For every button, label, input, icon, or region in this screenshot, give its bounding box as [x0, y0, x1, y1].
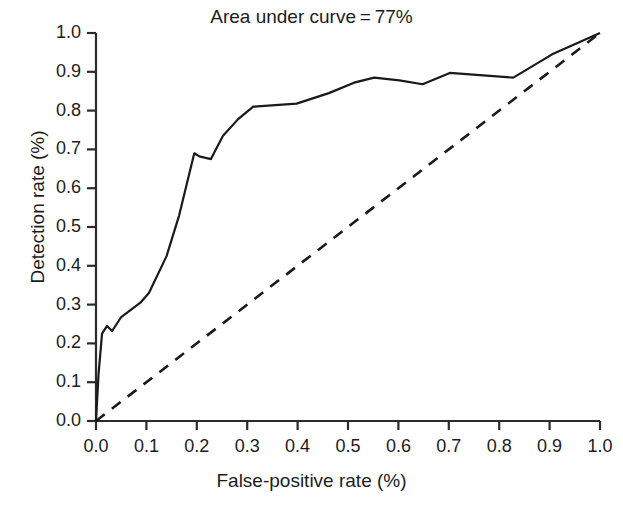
x-axis-ticks [96, 421, 600, 430]
x-tick-label: 0.2 [174, 436, 220, 457]
x-tick-label: 0.7 [426, 436, 472, 457]
y-tick-label: 0.4 [37, 255, 81, 276]
x-tick-label: 0.1 [123, 436, 169, 457]
x-tick-label: 1.0 [577, 436, 623, 457]
y-tick-label: 0.8 [37, 100, 81, 121]
y-tick-label: 0.0 [37, 410, 81, 431]
y-tick-label: 0.9 [37, 61, 81, 82]
bottom-caption-fragment [0, 505, 623, 514]
y-tick-label: 0.3 [37, 294, 81, 315]
y-tick-label: 0.7 [37, 138, 81, 159]
x-tick-label: 0.9 [527, 436, 573, 457]
roc-chart-figure: Area under curve = 77% Detection rate (%… [0, 0, 623, 514]
y-tick-label: 0.5 [37, 216, 81, 237]
data-series-group [96, 33, 600, 421]
x-tick-label: 0.0 [73, 436, 119, 457]
y-axis-ticks [87, 33, 96, 421]
x-tick-label: 0.5 [325, 436, 371, 457]
x-tick-label: 0.4 [275, 436, 321, 457]
y-tick-label: 0.1 [37, 371, 81, 392]
y-tick-label: 0.2 [37, 332, 81, 353]
y-tick-label: 1.0 [37, 22, 81, 43]
x-tick-label: 0.8 [476, 436, 522, 457]
x-tick-label: 0.3 [224, 436, 270, 457]
chance-diagonal-line [96, 33, 600, 421]
x-tick-label: 0.6 [375, 436, 421, 457]
y-tick-label: 0.6 [37, 177, 81, 198]
